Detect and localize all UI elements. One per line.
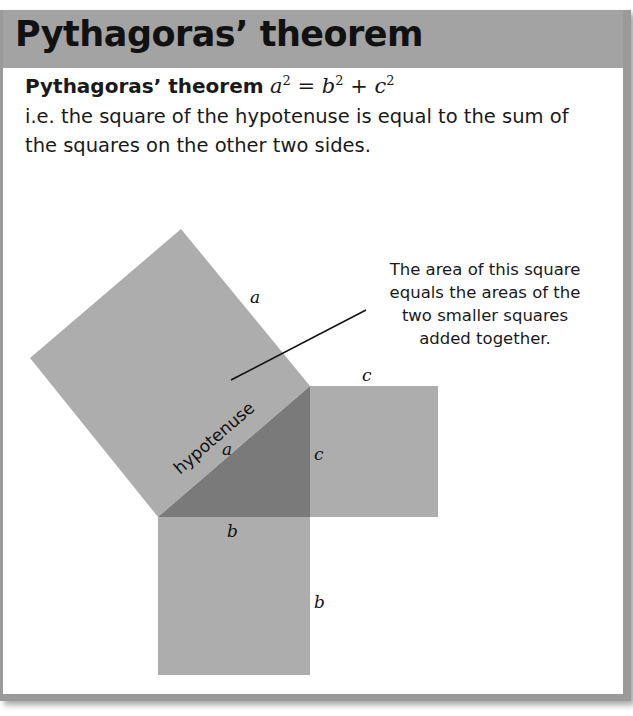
callout-line: equals the areas of the <box>360 281 610 304</box>
label-b-side: b <box>227 521 238 541</box>
callout-text: The area of this square equals the areas… <box>360 258 610 350</box>
callout-line: added together. <box>360 327 610 350</box>
pythagoras-diagram: a a c c b b hypotenuse <box>0 0 633 716</box>
c-square <box>310 386 438 517</box>
label-c-top: c <box>362 365 372 385</box>
callout-line: two smaller squares <box>360 304 610 327</box>
label-a-outer: a <box>250 287 260 307</box>
label-b-right: b <box>314 592 325 612</box>
callout-line: The area of this square <box>360 258 610 281</box>
label-c-side: c <box>314 444 324 464</box>
